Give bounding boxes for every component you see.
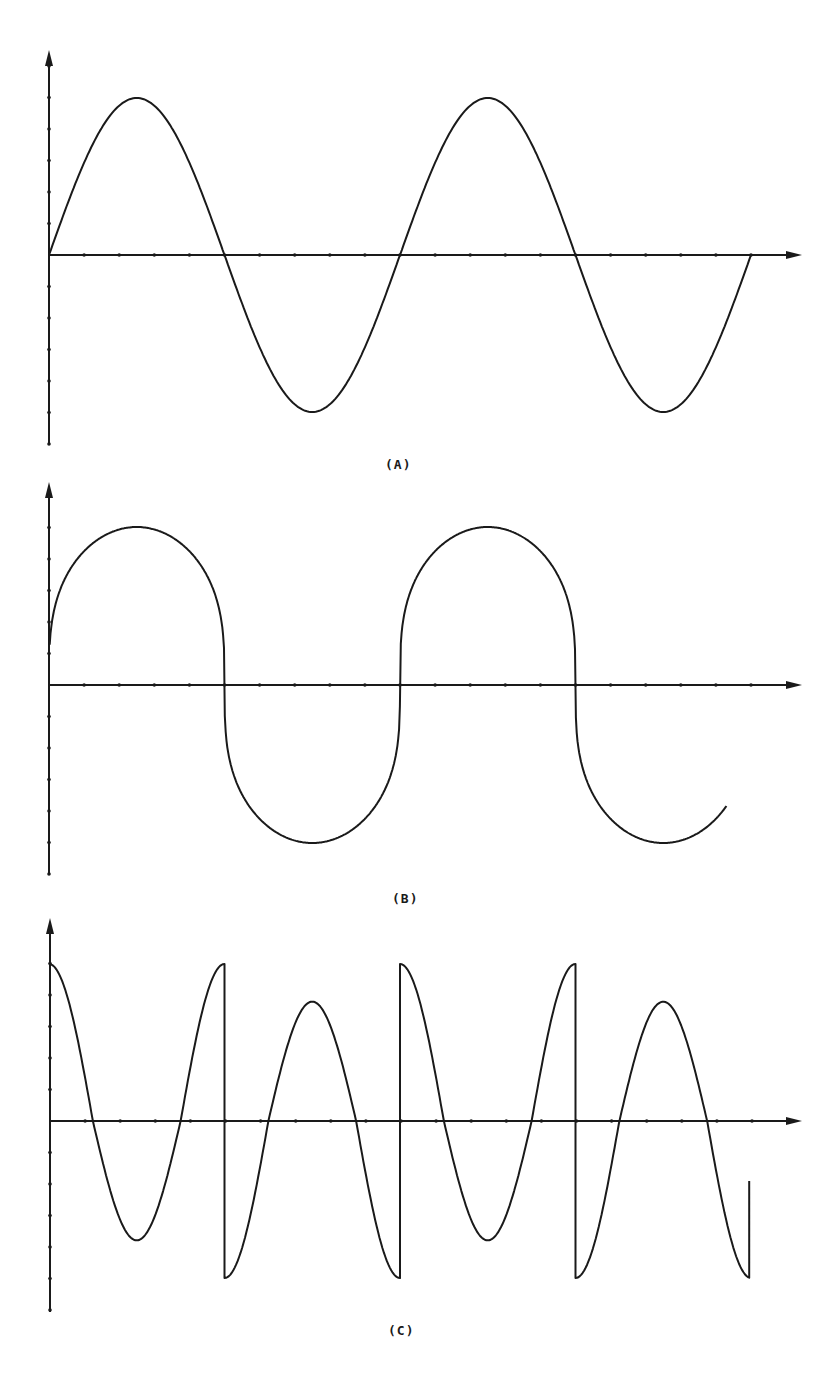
x-tick — [609, 683, 613, 687]
x-tick — [363, 683, 367, 687]
x-tick — [154, 1119, 158, 1123]
x-tick — [679, 253, 683, 257]
x-tick — [294, 1119, 298, 1123]
x-tick — [680, 1119, 684, 1123]
x-tick — [609, 253, 613, 257]
y-tick — [47, 348, 51, 352]
x-tick — [644, 683, 648, 687]
x-tick — [329, 1119, 333, 1123]
x-tick — [328, 683, 332, 687]
y-tick — [47, 589, 51, 593]
x-tick — [714, 683, 718, 687]
y-tick — [47, 620, 51, 624]
y-tick — [47, 494, 51, 498]
x-tick — [188, 253, 192, 257]
y-tick — [47, 778, 51, 782]
chart-panel-b — [45, 482, 802, 876]
chart-panel-a — [45, 50, 802, 446]
x-tick — [539, 683, 543, 687]
panel-label-c: (C) — [388, 1323, 414, 1338]
y-tick — [47, 379, 51, 383]
y-tick — [47, 96, 51, 100]
y-tick — [47, 809, 51, 813]
x-tick — [82, 683, 86, 687]
x-tick — [433, 683, 437, 687]
y-tick — [47, 442, 51, 446]
x-tick — [539, 253, 543, 257]
y-tick — [47, 190, 51, 194]
y-tick — [48, 930, 52, 934]
chart-panel-c — [46, 918, 802, 1312]
x-tick — [293, 683, 297, 687]
y-tick — [47, 159, 51, 163]
panel-label-a: (A) — [385, 457, 411, 472]
y-tick — [47, 526, 51, 530]
x-tick — [82, 253, 86, 257]
x-tick — [83, 1119, 87, 1123]
x-tick — [117, 253, 121, 257]
x-tick — [468, 683, 472, 687]
y-tick — [48, 1088, 52, 1092]
x-tick — [188, 683, 192, 687]
y-tick — [47, 746, 51, 750]
x-tick — [645, 1119, 649, 1123]
x-tick — [363, 253, 367, 257]
x-tick — [715, 1119, 719, 1123]
y-tick — [48, 1277, 52, 1281]
x-tick — [679, 683, 683, 687]
x-tick — [750, 1119, 754, 1123]
x-tick — [433, 253, 437, 257]
x-tick — [504, 253, 508, 257]
y-tick — [48, 1056, 52, 1060]
x-axis-arrow-icon — [786, 251, 802, 259]
y-tick — [47, 652, 51, 656]
x-axis-arrow-icon — [786, 1117, 802, 1125]
x-tick — [469, 1119, 473, 1123]
y-tick — [47, 127, 51, 131]
x-tick — [505, 1119, 509, 1123]
y-tick — [47, 841, 51, 845]
y-tick — [48, 1025, 52, 1029]
x-tick — [504, 683, 508, 687]
y-tick — [47, 715, 51, 719]
y-tick — [47, 64, 51, 68]
y-tick — [48, 1308, 52, 1312]
x-tick — [153, 683, 157, 687]
x-tick — [714, 253, 718, 257]
x-tick — [259, 1119, 263, 1123]
y-tick — [47, 557, 51, 561]
panel-label-b: (B) — [392, 891, 418, 906]
y-tick — [47, 316, 51, 320]
x-tick — [258, 253, 262, 257]
figure: (A) (B) (C) — [0, 0, 828, 1380]
y-tick — [47, 411, 51, 415]
y-tick — [48, 1151, 52, 1155]
y-tick — [48, 1214, 52, 1218]
y-tick — [48, 1245, 52, 1249]
x-tick — [258, 683, 262, 687]
x-axis-arrow-icon — [786, 681, 802, 689]
x-tick — [293, 253, 297, 257]
x-tick — [118, 1119, 122, 1123]
x-tick — [189, 1119, 193, 1123]
y-tick — [48, 1182, 52, 1186]
y-tick — [47, 222, 51, 226]
x-tick — [117, 683, 121, 687]
x-tick — [434, 1119, 438, 1123]
y-tick — [47, 285, 51, 289]
x-tick — [644, 253, 648, 257]
x-tick — [153, 253, 157, 257]
x-tick — [610, 1119, 614, 1123]
y-axis-arrow-icon — [45, 50, 53, 66]
y-tick — [47, 872, 51, 876]
x-tick — [468, 253, 472, 257]
x-tick — [328, 253, 332, 257]
x-tick — [749, 683, 753, 687]
y-tick — [48, 993, 52, 997]
x-tick — [540, 1119, 544, 1123]
x-tick — [364, 1119, 368, 1123]
